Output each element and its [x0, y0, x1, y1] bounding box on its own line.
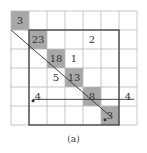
cell-label: 23: [32, 34, 45, 45]
figure-caption: (a): [0, 134, 147, 144]
cell-label: 18: [50, 53, 63, 64]
path-dot: [32, 99, 35, 102]
grid-diagram: 32321815134843: [0, 0, 147, 130]
cell-label: 2: [89, 34, 95, 45]
cell-label: 8: [89, 91, 95, 102]
path-dot: [104, 118, 107, 121]
diagonal-path: [11, 30, 112, 117]
cell-label: 4: [35, 91, 41, 102]
cell-label: 3: [107, 110, 113, 121]
cell-label: 3: [17, 15, 23, 26]
cell-label: 1: [71, 53, 77, 64]
cell-label: 5: [53, 72, 59, 83]
cell-label: 13: [68, 72, 81, 83]
cell-label: 4: [125, 91, 131, 102]
